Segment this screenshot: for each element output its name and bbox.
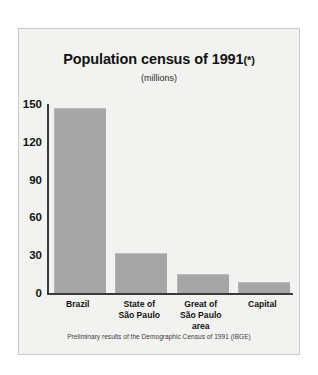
x-category-label-line: Capital [232, 299, 294, 310]
bar [177, 274, 229, 293]
x-axis-line [47, 293, 293, 295]
x-category-label: Capital [232, 299, 294, 310]
y-tick-label: 30 [29, 249, 42, 261]
chart-title-marker: (*) [244, 54, 255, 66]
bar [115, 253, 167, 293]
y-tick-label: 0 [36, 287, 42, 299]
y-tick-label: 60 [29, 211, 42, 223]
y-tick-label: 90 [29, 174, 42, 186]
y-tick-label: 150 [23, 98, 42, 110]
x-category-label-line: area [170, 321, 232, 332]
x-category-label-line: São Paulo [109, 310, 171, 321]
x-category-label-line: Brazil [47, 299, 109, 310]
x-category-label: Great ofSão Pauloarea [170, 299, 232, 332]
bar [238, 282, 290, 293]
chart-title-text: Population census of 1991 [63, 51, 243, 67]
x-category-label-line: São Paulo [170, 310, 232, 321]
chart-panel: Population census of 1991(*) (millions) … [18, 28, 300, 355]
bar [54, 108, 106, 293]
x-category-label-line: Great of [170, 299, 232, 310]
chart-subtitle: (millions) [19, 73, 299, 83]
y-axis-line [47, 104, 49, 293]
x-category-label: State ofSão Paulo [109, 299, 171, 321]
chart-title: Population census of 1991(*) [19, 51, 299, 67]
x-category-label: Brazil [47, 299, 109, 310]
y-tick-label: 120 [23, 136, 42, 148]
x-category-label-line: State of [109, 299, 171, 310]
chart-footnote: Preliminary results of the Demographic C… [19, 333, 299, 340]
plot-area: 0306090120150 BrazilState ofSão PauloGre… [47, 104, 293, 293]
